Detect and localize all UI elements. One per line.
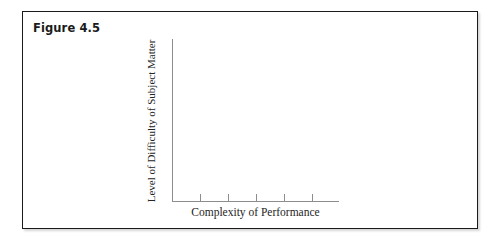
x-axis-tick — [200, 194, 201, 201]
x-axis-title-label: Complexity of Performance — [172, 206, 339, 218]
x-axis-tick — [312, 194, 313, 201]
x-axis-tick — [256, 194, 257, 201]
x-axis-tick — [284, 194, 285, 201]
x-axis-tick — [228, 194, 229, 201]
y-axis-line — [172, 39, 173, 202]
x-axis-line — [172, 201, 339, 202]
figure-panel: Figure 4.5 Level of Difficulty of Subjec… — [22, 11, 478, 229]
plot-area — [172, 39, 339, 202]
y-axis-title: Level of Difficulty of Subject Matter — [143, 39, 159, 202]
figure-title: Figure 4.5 — [33, 21, 100, 35]
y-axis-title-label: Level of Difficulty of Subject Matter — [145, 39, 157, 202]
